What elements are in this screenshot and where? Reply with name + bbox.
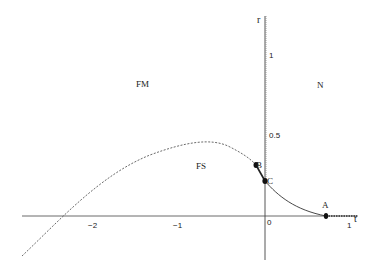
t-tick-1: 1 [347, 221, 352, 230]
point-a-marker [324, 213, 328, 219]
r-tick-1: 1 [269, 51, 274, 60]
point-b-label: B [256, 160, 262, 170]
region-n-label: N [317, 80, 324, 90]
dashed-boundary-curve [22, 142, 256, 256]
solid-curve-c-a [265, 181, 326, 216]
t-tick-0: 0 [267, 218, 272, 227]
point-c-label: C [267, 176, 273, 186]
region-fs-label: FS [196, 161, 206, 171]
r-axis-name: r [257, 14, 261, 25]
t-axis-name: t [354, 213, 357, 224]
t-tick-minus-2: −2 [88, 221, 98, 230]
r-tick-0-5: 0.5 [269, 131, 281, 140]
t-tick-minus-1: −1 [173, 221, 183, 230]
phase-diagram: A B C FM N FS r t 1 0.5 −2 −1 0 1 [0, 0, 380, 271]
point-a-label: A [322, 200, 329, 210]
region-fm-label: FM [136, 79, 149, 89]
